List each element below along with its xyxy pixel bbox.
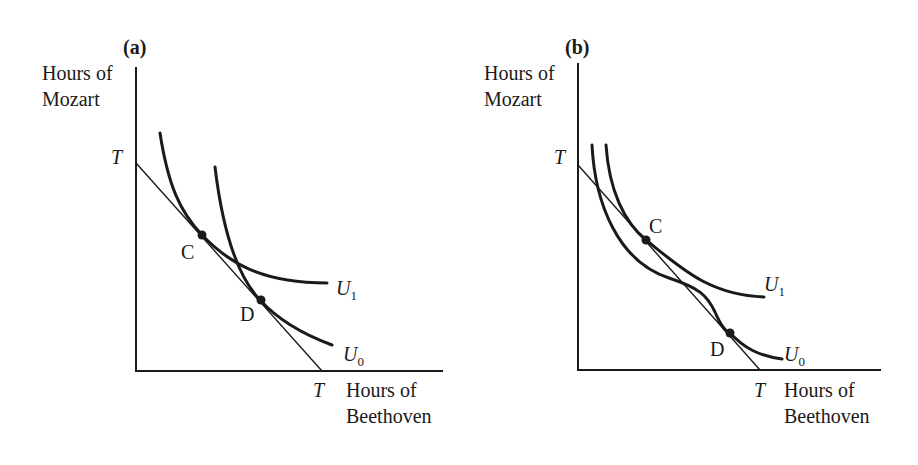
indifference-curve-u0 [592, 145, 782, 359]
point-d-label: D [240, 302, 254, 326]
point-c-label: C [181, 240, 194, 264]
x-axis-label-line2: Beethoven [784, 404, 870, 428]
curve-u1-label: U1 [764, 272, 785, 304]
panel-a: (a) Hours of Mozart T C D U1 U0 T Hours … [0, 0, 459, 465]
point-c-marker [198, 231, 207, 240]
x-intercept-label: T [754, 378, 765, 402]
panel-label: (a) [123, 35, 146, 59]
x-intercept-label: T [313, 378, 324, 402]
panel-b: (b) Hours of Mozart T C D U1 U0 T Hours … [459, 0, 918, 465]
curve-u0-label: U0 [343, 342, 364, 374]
y-axis-label-line2: Mozart [42, 87, 100, 111]
indifference-curve-u0 [215, 167, 332, 345]
y-axis-label-line1: Hours of [484, 61, 555, 85]
x-axis-label-line2: Beethoven [346, 404, 432, 428]
y-axis-label-line2: Mozart [484, 87, 542, 111]
panel-label: (b) [565, 35, 589, 59]
indifference-curve-u1 [606, 145, 764, 297]
point-d-marker [726, 329, 735, 338]
budget-line-tt [136, 163, 322, 371]
curve-u1-label: U1 [336, 276, 357, 308]
y-intercept-label: T [111, 145, 122, 169]
point-d-marker [257, 296, 266, 305]
y-intercept-label: T [554, 145, 565, 169]
curve-u0-label: U0 [784, 342, 805, 374]
x-axis-label-line1: Hours of [346, 378, 417, 402]
point-c-label: C [649, 214, 662, 238]
budget-line-tt [578, 165, 760, 370]
x-axis-label-line1: Hours of [784, 378, 855, 402]
y-axis-label-line1: Hours of [42, 61, 113, 85]
point-d-label: D [710, 337, 724, 361]
